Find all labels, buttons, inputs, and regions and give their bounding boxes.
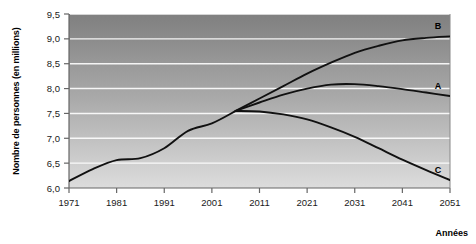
y-axis-title: Nombre de personnes (en millions) (11, 11, 21, 191)
x-tick-label: 2051 (439, 197, 460, 208)
y-axis-ticks: 6,06,57,07,58,08,59,09,5 (47, 9, 69, 194)
x-tick-label: 1991 (154, 197, 175, 208)
y-tick-label: 7,0 (47, 133, 60, 144)
x-axis-ticks: 197119811991200120112021203120412051 (58, 188, 460, 208)
y-tick-label: 7,5 (47, 108, 60, 119)
x-tick-label: 1971 (58, 197, 79, 208)
x-tick-label: 2021 (297, 197, 318, 208)
series-label-b: B (435, 21, 442, 31)
series-label-a: A (435, 81, 442, 91)
plot-background (69, 14, 450, 188)
y-tick-label: 6,0 (47, 183, 60, 194)
series-label-c: C (435, 165, 442, 175)
x-tick-label: 2001 (201, 197, 222, 208)
y-tick-label: 9,0 (47, 33, 60, 44)
y-tick-label: 8,0 (47, 83, 60, 94)
y-tick-label: 6,5 (47, 158, 60, 169)
y-tick-label: 8,5 (47, 58, 60, 69)
x-axis-title: Années (435, 228, 468, 238)
x-tick-label: 1981 (106, 197, 127, 208)
population-projection-chart: Nombre de personnes (en millions) Années… (0, 0, 476, 244)
chart-canvas: 6,06,57,07,58,08,59,09,5 197119811991200… (0, 0, 476, 244)
y-tick-label: 9,5 (47, 9, 60, 20)
x-tick-label: 2011 (249, 197, 269, 208)
x-tick-label: 2031 (344, 197, 365, 208)
x-tick-label: 2041 (392, 197, 413, 208)
